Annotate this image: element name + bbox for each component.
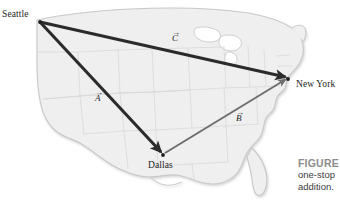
- vector-b-letter: B: [236, 113, 242, 123]
- city-dot-newyork: [286, 77, 290, 81]
- vector-a-letter: A: [95, 93, 101, 103]
- figure-caption-title: FIGURE: [298, 157, 340, 169]
- vector-addition-figure: Seattle Dallas New York → A → B → C FIGU…: [0, 0, 340, 214]
- vector-label-a: → A: [95, 91, 103, 103]
- figure-caption: FIGURE one-stop addition.: [298, 157, 340, 193]
- city-label-newyork: New York: [296, 79, 335, 89]
- city-dot-dallas: [161, 153, 165, 157]
- vector-label-c: → C: [172, 31, 180, 43]
- city-dot-seattle: [38, 20, 42, 24]
- vector-c-letter: C: [172, 33, 178, 43]
- city-label-seattle: Seattle: [2, 9, 29, 19]
- us-map-illustration: [0, 0, 340, 214]
- vector-label-b: → B: [236, 111, 244, 123]
- figure-caption-line-2: addition.: [298, 181, 340, 193]
- figure-caption-line-1: one-stop: [298, 169, 340, 181]
- city-label-dallas: Dallas: [148, 160, 173, 170]
